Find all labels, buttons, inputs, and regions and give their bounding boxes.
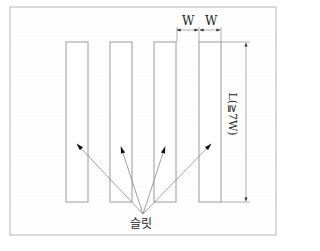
width-label-1: W [182, 14, 194, 28]
slit-2 [110, 42, 132, 202]
width-label-2: W [205, 14, 217, 28]
slit-label: 슬릿 [130, 214, 152, 231]
slit-3 [154, 42, 176, 202]
slit-1 [66, 42, 88, 202]
slit-4 [199, 42, 221, 202]
length-label: L(≧7W) [226, 92, 239, 135]
